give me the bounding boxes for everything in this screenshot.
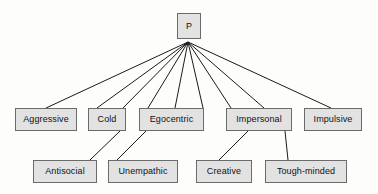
edge-root-5 — [188, 42, 203, 108]
edge-root-3 — [148, 42, 188, 108]
node-cold[interactable]: Cold — [88, 108, 126, 131]
edge-root-4 — [175, 42, 188, 108]
edge-sub-0 — [90, 131, 120, 160]
edge-sub-1 — [117, 131, 146, 160]
edge-root-8 — [188, 42, 331, 108]
node-impulsive[interactable]: Impulsive — [304, 108, 362, 131]
edge-root-7 — [188, 42, 264, 108]
edge-sub-2 — [219, 131, 248, 160]
node-egocentric[interactable]: Egocentric — [139, 108, 204, 131]
node-label: Cold — [98, 115, 117, 124]
edge-root-1 — [97, 42, 188, 108]
node-impersonal[interactable]: Impersonal — [226, 108, 292, 131]
node-creative[interactable]: Creative — [196, 160, 252, 183]
node-label: Unempathic — [118, 167, 167, 176]
node-label: Egocentric — [150, 115, 194, 124]
node-label: Creative — [207, 167, 241, 176]
edge-root-6 — [188, 42, 231, 108]
node-label: Impulsive — [314, 115, 353, 124]
node-aggressive[interactable]: Aggressive — [15, 108, 77, 131]
node-label: Antisocial — [45, 167, 85, 176]
node-antisocial[interactable]: Antisocial — [33, 160, 97, 183]
edge-root-0 — [46, 42, 188, 108]
node-tough-minded[interactable]: Tough-minded — [265, 160, 347, 183]
diagram-canvas: P AggressiveColdEgocentricImpersonalImpu… — [0, 0, 378, 194]
edge-sub-3 — [285, 131, 288, 160]
node-label: Tough-minded — [277, 167, 335, 176]
node-label: Aggressive — [23, 115, 69, 124]
edges-from-root — [46, 42, 331, 108]
edge-root-2 — [123, 42, 188, 108]
node-root-p[interactable]: P — [177, 13, 201, 39]
node-label: P — [186, 22, 192, 31]
edges-level2-to-level3 — [90, 131, 288, 160]
node-unempathic[interactable]: Unempathic — [108, 160, 178, 183]
node-label: Impersonal — [236, 115, 282, 124]
